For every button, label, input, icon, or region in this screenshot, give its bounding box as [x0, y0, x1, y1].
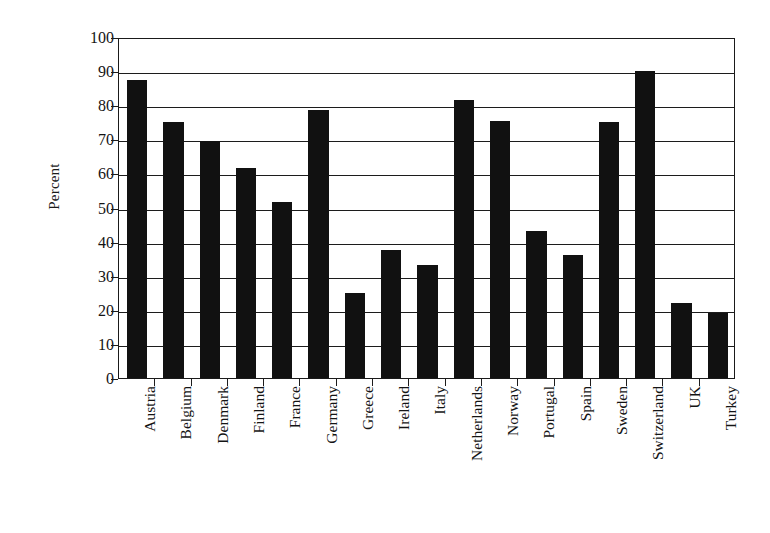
x-axis-label-slot: France [263, 386, 299, 526]
x-axis-tick-marks [118, 379, 735, 386]
x-axis-label-slot: Austria [118, 386, 154, 526]
y-axis-tick-mark [111, 106, 118, 107]
x-axis-tick-mark [662, 379, 663, 386]
plot-area [118, 38, 735, 379]
bar [563, 255, 583, 378]
x-axis-label-slot: Portugal [517, 386, 553, 526]
y-axis-tick-mark [111, 277, 118, 278]
y-axis-tick-mark [111, 345, 118, 346]
y-axis-tick-marks [111, 38, 118, 379]
y-axis-tick-mark [111, 243, 118, 244]
x-axis-label-slot: Netherlands [445, 386, 481, 526]
bar [635, 71, 655, 378]
bar [599, 122, 619, 378]
y-axis-tick-label: 0 [78, 371, 114, 387]
y-axis-tick-label: 50 [78, 201, 114, 217]
x-axis-label-slot: Spain [554, 386, 590, 526]
bar [127, 80, 147, 378]
bar [200, 141, 220, 378]
x-axis-category-labels: AustriaBelgiumDenmarkFinlandFranceGerman… [118, 386, 735, 526]
y-axis-tick-mark [111, 209, 118, 210]
y-axis-tick-mark [111, 140, 118, 141]
x-axis-label-slot: UK [662, 386, 698, 526]
y-axis-tick-mark [111, 38, 118, 39]
bar [526, 231, 546, 378]
x-axis-tick-mark [481, 379, 482, 386]
y-axis-tick-mark [111, 174, 118, 175]
bar [417, 265, 437, 378]
bar [236, 168, 256, 378]
x-axis-tick-mark [299, 379, 300, 386]
x-axis-tick-mark [445, 379, 446, 386]
x-axis-label-slot: Sweden [590, 386, 626, 526]
y-axis-tick-label: 20 [78, 303, 114, 319]
x-axis-tick-mark [517, 379, 518, 386]
bar [163, 122, 183, 378]
x-axis-category-label: Turkey [723, 386, 739, 430]
x-axis-label-slot: Switzerland [626, 386, 662, 526]
x-axis-tick-mark [699, 379, 700, 386]
y-axis-tick-label: 90 [78, 64, 114, 80]
y-axis-tick-label: 60 [78, 166, 114, 182]
x-axis-label-slot: Turkey [699, 386, 735, 526]
y-axis-tick-label: 40 [78, 235, 114, 251]
y-axis-tick-mark [111, 311, 118, 312]
x-axis-label-slot: Denmark [191, 386, 227, 526]
y-axis-tick-label: 100 [78, 30, 114, 46]
bar [308, 110, 328, 378]
y-axis-title: Percent [46, 147, 63, 227]
bar-chart-figure: Percent 1009080706050403020100 AustriaBe… [0, 0, 770, 533]
x-axis-label-slot: Belgium [154, 386, 190, 526]
y-axis-tick-mark [111, 379, 118, 380]
x-axis-label-slot: Germany [299, 386, 335, 526]
y-axis-tick-label: 70 [78, 132, 114, 148]
bar [708, 313, 728, 378]
y-axis-tick-label: 80 [78, 98, 114, 114]
y-axis-tick-label: 10 [78, 337, 114, 353]
bar [671, 303, 691, 378]
x-axis-tick-mark [626, 379, 627, 386]
y-axis-tick-labels: 1009080706050403020100 [78, 38, 114, 379]
x-axis-label-slot: Greece [336, 386, 372, 526]
bar [272, 202, 292, 378]
x-axis-tick-mark [263, 379, 264, 386]
x-axis-label-slot: Finland [227, 386, 263, 526]
bar [490, 121, 510, 378]
x-axis-label-slot: Italy [408, 386, 444, 526]
x-axis-tick-mark [191, 379, 192, 386]
bars-layer [119, 39, 734, 378]
bar [381, 250, 401, 378]
x-axis-label-slot: Norway [481, 386, 517, 526]
x-axis-tick-mark [590, 379, 591, 386]
y-axis-tick-mark [111, 72, 118, 73]
x-axis-label-slot: Ireland [372, 386, 408, 526]
x-axis-tick-mark [554, 379, 555, 386]
y-axis-tick-label: 30 [78, 269, 114, 285]
bar [454, 100, 474, 378]
bar [345, 293, 365, 378]
